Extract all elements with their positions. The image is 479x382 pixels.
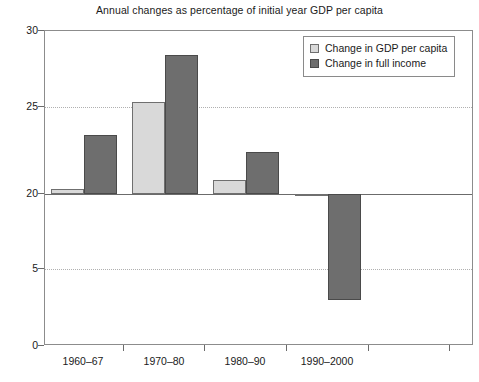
x-axis-tick [204,345,205,351]
x-axis-tick-label: 1970–80 [144,355,185,367]
x-axis-tick-label: 1960–67 [63,355,104,367]
legend-item[interactable]: Change in GDP per capita [310,41,447,56]
legend-item[interactable]: Change in full income [310,56,447,71]
plot-inner [45,31,472,344]
bar [295,194,328,196]
x-axis-tick [449,345,450,351]
legend-item-label: Change in full income [325,57,426,70]
legend-item-label: Change in GDP per capita [325,42,447,55]
y-axis-tick-label: 20 [0,187,38,199]
gridline [45,107,472,108]
y-axis-tick-label: 30 [0,24,38,36]
y-axis-tick-label: 5 [0,262,38,274]
bar [165,55,198,194]
chart-title: Annual changes as percentage of initial … [0,4,479,16]
x-axis-tick [123,345,124,351]
y-axis-tick [38,345,44,346]
legend-swatch-icon [310,59,319,68]
y-axis-tick-label: 25 [0,100,38,112]
bar [84,135,117,194]
bar [51,189,84,194]
x-axis-tick-label: 1980–90 [225,355,266,367]
chart-figure: Annual changes as percentage of initial … [0,0,479,382]
plot-area [44,30,473,345]
bar [213,180,246,194]
x-axis-tick-label: 1990–2000 [301,355,354,367]
gridline [45,269,472,270]
x-axis-tick [368,345,369,351]
bar [132,102,165,194]
bar [246,152,279,194]
legend-swatch-icon [310,44,319,53]
baseline-gridline [45,194,472,195]
bar [328,194,361,300]
y-axis-tick-label: 0 [0,339,38,351]
chart-legend: Change in GDP per capitaChange in full i… [303,36,455,77]
x-axis-tick [286,345,287,351]
